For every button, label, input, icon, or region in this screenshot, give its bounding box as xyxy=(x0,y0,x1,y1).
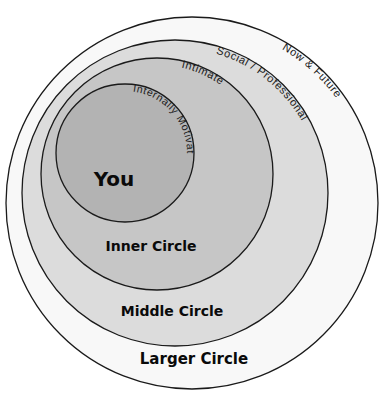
label-larger-circle: Larger Circle xyxy=(140,350,248,368)
nested-circles-diagram: Internally Motivated Intimate Social / P… xyxy=(0,0,384,397)
label-inner-circle: Inner Circle xyxy=(106,238,197,254)
label-you: You xyxy=(93,167,135,191)
label-middle-circle: Middle Circle xyxy=(121,303,224,319)
